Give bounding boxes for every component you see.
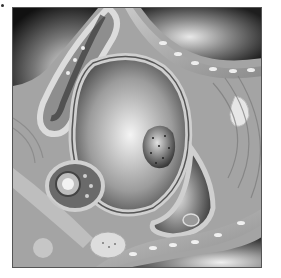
illustration-frame xyxy=(12,7,262,268)
tissue-illustration xyxy=(13,8,262,268)
corner-mark xyxy=(1,4,4,7)
